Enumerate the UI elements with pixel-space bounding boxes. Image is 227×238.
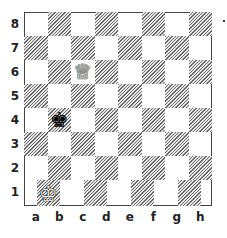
square-g6[interactable]	[165, 60, 189, 84]
square-a8[interactable]	[24, 12, 48, 36]
file-label-b: b	[48, 210, 72, 224]
white-queen-icon[interactable]: ♕	[71, 60, 95, 84]
square-e7[interactable]	[118, 36, 142, 60]
square-h5[interactable]	[189, 84, 213, 108]
square-e3[interactable]	[118, 132, 142, 156]
square-f4[interactable]	[142, 108, 166, 132]
file-label-g: g	[165, 210, 189, 224]
square-e8[interactable]	[118, 12, 142, 36]
file-label-e: e	[118, 210, 142, 224]
square-c3[interactable]	[71, 132, 95, 156]
square-g3[interactable]	[165, 132, 189, 156]
square-b3[interactable]	[48, 132, 72, 156]
chess-board: ♕♚♔	[24, 12, 212, 206]
square-a3[interactable]	[24, 132, 48, 156]
file-label-f: f	[142, 210, 166, 224]
square-h4[interactable]	[189, 108, 213, 132]
square-e6[interactable]	[118, 60, 142, 84]
rank-label-7: 7	[10, 41, 20, 55]
square-a5[interactable]	[24, 84, 48, 108]
square-g2[interactable]	[165, 156, 189, 180]
white-king-icon[interactable]: ♔	[37, 182, 61, 206]
square-h6[interactable]	[189, 60, 213, 84]
rank-label-1: 1	[10, 185, 20, 199]
square-c7[interactable]	[71, 36, 95, 60]
square-rank1-dark-1[interactable]	[84, 180, 108, 206]
square-d8[interactable]	[95, 12, 119, 36]
square-f3[interactable]	[142, 132, 166, 156]
square-b7[interactable]	[48, 36, 72, 60]
square-h2[interactable]	[189, 156, 213, 180]
square-b8[interactable]	[48, 12, 72, 36]
square-f8[interactable]	[142, 12, 166, 36]
square-rank1-dark-3[interactable]	[178, 180, 202, 206]
rank-label-5: 5	[10, 89, 20, 103]
square-e2[interactable]	[118, 156, 142, 180]
rank-label-2: 2	[10, 161, 20, 175]
square-b6[interactable]	[48, 60, 72, 84]
square-g8[interactable]	[165, 12, 189, 36]
file-label-d: d	[95, 210, 119, 224]
square-h3[interactable]	[189, 132, 213, 156]
square-d2[interactable]	[95, 156, 119, 180]
square-d6[interactable]	[95, 60, 119, 84]
square-c5[interactable]	[71, 84, 95, 108]
square-g7[interactable]	[165, 36, 189, 60]
square-f7[interactable]	[142, 36, 166, 60]
square-f5[interactable]	[142, 84, 166, 108]
rank-label-4: 4	[10, 113, 20, 127]
black-king-icon[interactable]: ♚	[48, 108, 72, 132]
square-g4[interactable]	[165, 108, 189, 132]
square-c8[interactable]	[71, 12, 95, 36]
square-g5[interactable]	[165, 84, 189, 108]
square-f2[interactable]	[142, 156, 166, 180]
rank-label-8: 8	[10, 17, 20, 31]
square-a2[interactable]	[24, 156, 48, 180]
square-f6[interactable]	[142, 60, 166, 84]
square-c2[interactable]	[71, 156, 95, 180]
square-c4[interactable]	[71, 108, 95, 132]
square-rank1-dark-2[interactable]	[131, 180, 155, 206]
rank-label-6: 6	[10, 65, 20, 79]
square-d4[interactable]	[95, 108, 119, 132]
square-d7[interactable]	[95, 36, 119, 60]
square-a4[interactable]	[24, 108, 48, 132]
file-label-c: c	[71, 210, 95, 224]
square-h8[interactable]	[189, 12, 213, 36]
rank-label-3: 3	[10, 137, 20, 151]
square-a7[interactable]	[24, 36, 48, 60]
square-a6[interactable]	[24, 60, 48, 84]
square-b2[interactable]	[48, 156, 72, 180]
square-d3[interactable]	[95, 132, 119, 156]
square-d5[interactable]	[95, 84, 119, 108]
file-label-a: a	[24, 210, 48, 224]
square-e5[interactable]	[118, 84, 142, 108]
square-h7[interactable]	[189, 36, 213, 60]
square-e4[interactable]	[118, 108, 142, 132]
marker-dot	[223, 20, 225, 22]
square-b5[interactable]	[48, 84, 72, 108]
file-label-h: h	[189, 210, 213, 224]
